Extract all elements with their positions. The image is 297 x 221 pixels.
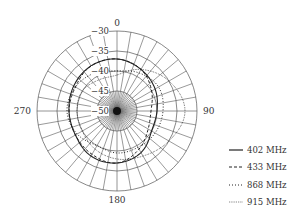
legend-item-433: 433 MHz: [229, 159, 287, 177]
legend-item-868: 868 MHz: [229, 176, 287, 194]
angle-label-90: 90: [203, 106, 215, 116]
ring-label: −50: [91, 106, 109, 116]
legend-label: 433 MHz: [247, 162, 287, 172]
legend-label: 868 MHz: [247, 180, 287, 190]
legend-label: 402 MHz: [247, 145, 287, 155]
ring-label: −40: [91, 66, 109, 76]
legend: 402 MHz 433 MHz 868 MHz 915 MHz: [229, 141, 287, 211]
ring-label: −30: [91, 26, 109, 36]
legend-item-402: 402 MHz: [229, 141, 287, 159]
fine-dotted-line-icon: [229, 198, 243, 206]
legend-item-915: 915 MHz: [229, 194, 287, 212]
dotted-line-icon: [229, 181, 243, 189]
ring-label: −35: [91, 46, 109, 56]
polar-grid: [37, 31, 197, 191]
angle-label-180: 180: [108, 195, 125, 205]
angle-label-0: 0: [114, 18, 120, 28]
angle-label-270: 270: [14, 106, 31, 116]
ring-label: −45: [91, 86, 109, 96]
legend-label: 915 MHz: [247, 197, 287, 207]
dashed-line-icon: [229, 163, 243, 171]
solid-line-icon: [229, 146, 243, 154]
center-dot: [113, 107, 121, 115]
